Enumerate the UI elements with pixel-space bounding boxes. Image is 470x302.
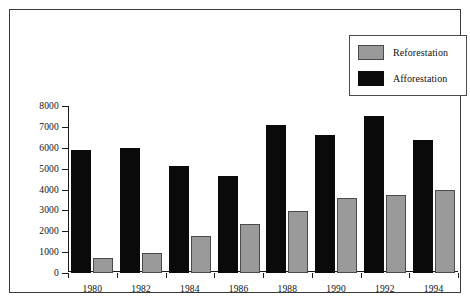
bar-reforestation-1988 [288,211,308,273]
y-tick-mark [62,106,68,107]
bar-afforestation-1992 [364,116,384,273]
y-tick-mark [62,190,68,191]
bar-reforestation-1982 [142,253,162,273]
y-tick-label: 0 [54,268,59,278]
legend-label-reforestation: Reforestation [393,47,448,58]
bar-reforestation-1986 [240,224,260,273]
y-tick-label: 5000 [39,164,59,174]
y-tick-label: 1000 [39,247,59,257]
x-tick-mark [117,273,118,278]
y-tick-mark [62,231,68,232]
legend-item-afforestation: Afforestation [358,71,447,86]
bar-afforestation-1982 [120,148,140,273]
x-axis-label-1980: 1980 [82,284,102,294]
x-tick-mark [68,273,69,278]
y-tick-mark [62,148,68,149]
y-tick-label: 3000 [39,205,59,215]
x-axis-label-1988: 1988 [277,284,297,294]
figure-frame: Reforestation Afforestation 010002000300… [9,9,461,293]
x-tick-mark [409,273,410,278]
legend-label-afforestation: Afforestation [393,73,447,84]
y-tick-label: 2000 [39,226,59,236]
bar-reforestation-1984 [191,236,211,273]
bar-reforestation-1994 [435,190,455,274]
bar-reforestation-1992 [386,195,406,273]
bar-afforestation-1986 [218,176,238,273]
y-tick-label: 6000 [39,143,59,153]
bar-afforestation-1990 [315,135,335,273]
x-tick-mark [312,273,313,278]
x-axis-label-1982: 1982 [131,284,151,294]
x-tick-mark [166,273,167,278]
y-tick-label: 7000 [39,122,59,132]
x-axis-label-1990: 1990 [326,284,346,294]
bar-reforestation-1990 [337,198,357,273]
plot-area: 010002000300040005000600070008000 198019… [68,106,458,273]
chart-legend: Reforestation Afforestation [349,35,467,96]
x-axis-label-1984: 1984 [180,284,200,294]
y-tick-mark [62,127,68,128]
x-tick-mark [214,273,215,278]
legend-swatch-reforestation-icon [358,45,384,60]
x-axis-label-1994: 1994 [424,284,444,294]
y-tick-label: 4000 [39,185,59,195]
bar-afforestation-1984 [169,166,189,274]
bar-afforestation-1988 [266,125,286,273]
x-tick-mark [361,273,362,278]
x-tick-mark [458,273,459,278]
bar-afforestation-1980 [71,150,91,273]
x-axis-label-1986: 1986 [229,284,249,294]
chart-figure: Reforestation Afforestation 010002000300… [0,0,470,302]
legend-item-reforestation: Reforestation [358,45,448,60]
y-tick-mark [62,169,68,170]
y-tick-mark [62,210,68,211]
bar-reforestation-1980 [93,258,113,273]
y-tick-label: 8000 [39,101,59,111]
x-tick-mark [263,273,264,278]
legend-swatch-afforestation-icon [358,71,384,86]
x-axis-label-1992: 1992 [375,284,395,294]
bar-afforestation-1994 [413,140,433,273]
y-tick-mark [62,252,68,253]
